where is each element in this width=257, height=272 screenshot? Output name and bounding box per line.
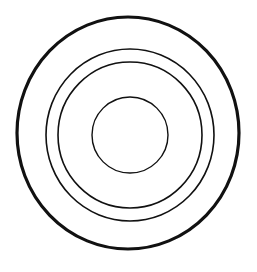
diagram-svg bbox=[0, 0, 257, 272]
concentric-circles-diagram bbox=[0, 0, 257, 272]
background bbox=[0, 0, 257, 272]
